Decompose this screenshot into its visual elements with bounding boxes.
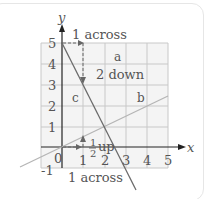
x-tick-5: 5	[164, 153, 172, 168]
coordinate-graph: y x 5 4 3 2 1 0 -1 1 2 3 4 5 a b c 1 acr…	[0, 0, 211, 199]
y-tick-3: 3	[48, 78, 56, 93]
annotation-bottom-across: 1 across	[68, 170, 123, 185]
x-axis-arrow-icon	[178, 144, 186, 150]
y-tick-5: 5	[48, 36, 56, 51]
annotation-top-across: 1 across	[72, 27, 127, 42]
label-b: b	[137, 91, 145, 105]
annotation-down: 2 down	[96, 67, 145, 82]
label-c: c	[72, 91, 79, 105]
origin-label: 0	[54, 151, 62, 166]
annotation-half-num: 1	[90, 137, 96, 148]
x-tick-1: 1	[79, 153, 87, 168]
x-tick-4: 4	[143, 153, 151, 168]
y-axis-arrow-icon	[59, 24, 65, 32]
annotation-up: up	[98, 139, 115, 154]
annotation-half-den: 2	[90, 148, 96, 159]
y-tick-4: 4	[48, 57, 56, 72]
y-axis-label: y	[57, 10, 66, 25]
x-axis-label: x	[187, 140, 195, 155]
label-a: a	[114, 50, 121, 64]
x-tick-2: 2	[101, 153, 109, 168]
y-tick-1: 1	[48, 120, 56, 135]
y-tick-neg1: -1	[41, 163, 54, 178]
y-tick-2: 2	[48, 99, 56, 114]
x-tick-3: 3	[122, 153, 130, 168]
